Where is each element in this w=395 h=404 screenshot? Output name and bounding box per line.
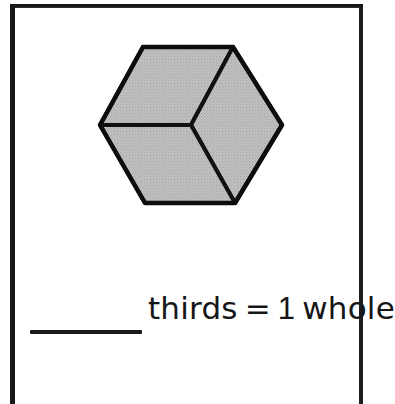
whole-word: whole [302,290,395,326]
answer-row: thirds=1whole [0,286,375,342]
equals-sign: = [245,290,271,326]
hexagon-svg [90,38,290,213]
unit-word: thirds [148,290,238,326]
blank-answer-line[interactable] [30,330,142,334]
quantity-value: 1 [278,291,295,326]
hexagon-figure [90,38,290,213]
equation-text: thirds=1whole [148,286,395,331]
